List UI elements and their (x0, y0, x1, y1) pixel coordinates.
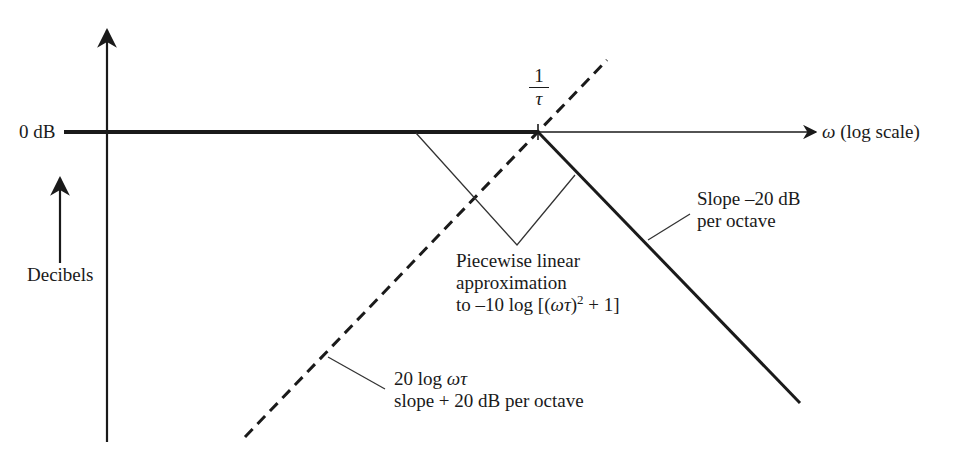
corner-frequency-label: 1 τ (529, 66, 549, 109)
corner-denominator: τ (536, 88, 543, 109)
zero-db-label: 0 dB (19, 121, 55, 143)
negative-slope-line2: per octave (697, 210, 800, 232)
bode-diagram: 0 dB Decibels ω (log scale) 1 τ Slope –2… (0, 0, 958, 464)
omega-symbol: ω (822, 121, 835, 142)
log-term-annotation: 20 log ωτ slope + 20 dB per octave (394, 368, 584, 412)
log-scale-text: (log scale) (840, 121, 920, 142)
x-axis-label: ω (log scale) (822, 121, 920, 143)
log-term-line2: slope + 20 dB per octave (394, 390, 584, 412)
slope-neg-leader (648, 214, 690, 240)
piecewise-annotation: Piecewise linear approximation to –10 lo… (456, 250, 620, 316)
piecewise-line2: approximation (456, 272, 620, 294)
log-term-line1: 20 log ωτ (394, 368, 584, 390)
piecewise-approximation-line (416, 133, 575, 245)
negative-slope-line1: Slope –20 dB (697, 188, 800, 210)
piecewise-line3: to –10 log [(ωτ)2 + 1] (456, 294, 620, 316)
negative-slope-annotation: Slope –20 dB per octave (697, 188, 800, 232)
piecewise-line1: Piecewise linear (456, 250, 620, 272)
corner-numerator: 1 (534, 65, 544, 86)
decibels-label: Decibels (27, 264, 93, 286)
log-term-leader (328, 357, 385, 389)
